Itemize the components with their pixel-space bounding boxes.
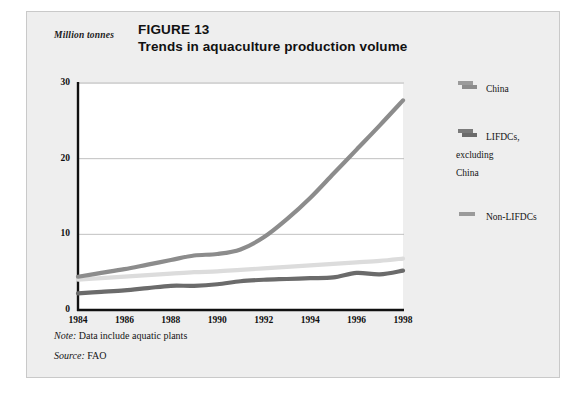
chart-legend: China LIFDCs, excluding China Non-LIFDCs: [456, 78, 561, 254]
legend-label-non-lifdcs: Non-LIFDCs: [486, 212, 537, 222]
y-tick-label-20: 20: [46, 153, 70, 163]
legend-item-non-lifdcs: Non-LIFDCs: [456, 206, 561, 224]
note-prefix: Note:: [54, 330, 76, 341]
x-tick-label-1984: 1984: [58, 315, 98, 325]
chart-source: Source: FAO: [54, 350, 107, 361]
x-tick-label-1990: 1990: [197, 315, 237, 325]
x-tick-label-1986: 1986: [104, 315, 144, 325]
x-tick-label-1994: 1994: [290, 315, 330, 325]
legend-label-china: China: [486, 84, 509, 94]
y-tick-label-30: 30: [46, 77, 70, 87]
source-text: FAO: [85, 350, 107, 361]
legend-swatch-non-lifdcs-icon: [456, 209, 478, 218]
source-prefix: Source:: [54, 350, 85, 361]
legend-swatch-lifdcs-icon: [456, 129, 478, 138]
legend-label-lifdcs-line2: excluding: [456, 150, 493, 160]
chart-note: Note: Data include aquatic plants: [54, 330, 187, 341]
legend-item-lifdcs: LIFDCs, excluding China: [456, 126, 561, 180]
note-text: Data include aquatic plants: [76, 330, 187, 341]
figure-screenshot: Million tonnes FIGURE 13 Trends in aquac…: [0, 0, 585, 399]
x-tick-label-1996: 1996: [337, 315, 377, 325]
y-tick-label-10: 10: [46, 228, 70, 238]
legend-swatch-china-icon: [456, 81, 478, 90]
legend-label-lifdcs-line1: LIFDCs,: [486, 132, 520, 142]
x-tick-label-1988: 1988: [151, 315, 191, 325]
legend-label-lifdcs-line3: China: [456, 168, 479, 178]
x-tick-label-1992: 1992: [244, 315, 284, 325]
y-tick-label-0: 0: [46, 304, 70, 314]
legend-label-lifdcs: LIFDCs, excluding China: [456, 132, 520, 178]
legend-item-china: China: [456, 78, 561, 96]
x-tick-label-1998: 1998: [383, 315, 423, 325]
